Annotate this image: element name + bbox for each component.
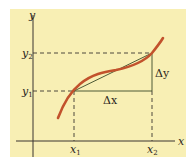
y-axis-label: y: [28, 9, 36, 22]
secant-diagram: y x y2 y1 x1 x2 Δx Δy: [0, 0, 195, 166]
x-axis-label: x: [178, 135, 185, 148]
background-panel: [10, 9, 186, 157]
delta-x-label: Δx: [103, 94, 118, 107]
delta-y-label: Δy: [155, 67, 170, 80]
